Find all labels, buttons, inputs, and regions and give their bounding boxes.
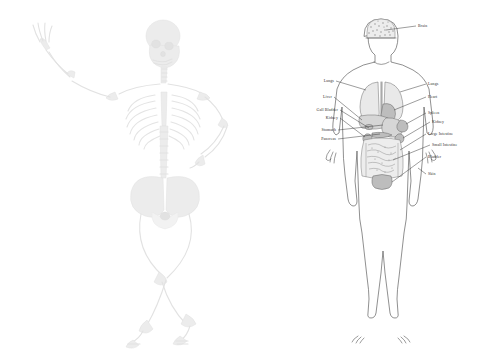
label-lungs-left: Lungs bbox=[324, 79, 335, 83]
skull bbox=[146, 20, 180, 68]
spine bbox=[160, 126, 168, 178]
skeleton-panel bbox=[0, 0, 290, 352]
label-brain: Brain bbox=[418, 24, 427, 28]
shoulder-girdle bbox=[106, 84, 210, 100]
anatomy-illustration: Lungs Liver Gall Bladder Kidney Stomach … bbox=[290, 0, 497, 352]
label-large-intestine: Large Intestine bbox=[428, 132, 453, 136]
left-arm-raised bbox=[33, 23, 110, 97]
label-liver: Liver bbox=[323, 95, 333, 99]
label-small-intestine: Small Intestine bbox=[432, 143, 457, 147]
left-hand bbox=[33, 23, 52, 50]
skeleton-illustration bbox=[0, 0, 290, 352]
label-pancreas: Pancreas bbox=[321, 137, 336, 141]
right-foot bbox=[173, 314, 196, 345]
bladder-organ bbox=[372, 175, 392, 190]
label-bladder: Bladder bbox=[428, 155, 442, 159]
label-heart: Heart bbox=[428, 95, 438, 99]
label-gall-bladder: Gall Bladder bbox=[317, 108, 339, 112]
label-kidney-right: Kidney bbox=[432, 120, 444, 124]
anatomy-panel: Lungs Liver Gall Bladder Kidney Stomach … bbox=[290, 0, 497, 352]
label-skin: Skin bbox=[428, 172, 436, 176]
pelvis bbox=[131, 177, 200, 229]
figure-canvas: Lungs Liver Gall Bladder Kidney Stomach … bbox=[0, 0, 497, 352]
left-foot bbox=[126, 320, 153, 348]
legs bbox=[126, 214, 196, 348]
label-lungs-right: Lungs bbox=[428, 82, 439, 86]
cervical-spine bbox=[161, 67, 167, 83]
label-stomach: Stomach bbox=[322, 128, 336, 132]
labels-top: Brain bbox=[418, 24, 427, 28]
label-spleen: Spleen bbox=[428, 111, 439, 115]
labels-left: Lungs Liver Gall Bladder Kidney Stomach … bbox=[317, 79, 339, 141]
label-kidney-left: Kidney bbox=[326, 116, 338, 120]
